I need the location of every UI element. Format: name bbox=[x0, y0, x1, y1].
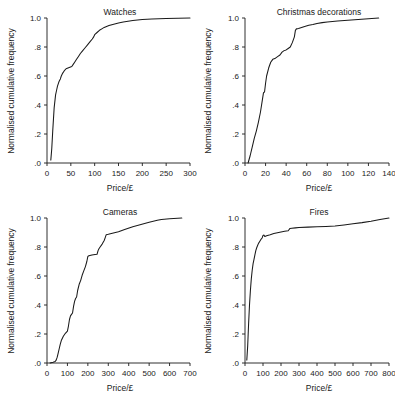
data-curve-christmas-decorations bbox=[248, 18, 379, 163]
x-tick-label: 200 bbox=[136, 169, 150, 178]
x-axis-label-watches: Price/£ bbox=[107, 183, 134, 193]
chart-watches: Watches Normalised cumulative frequency … bbox=[0, 0, 197, 200]
chart-title-fires: Fires bbox=[310, 207, 329, 217]
data-curve-cameras bbox=[50, 218, 182, 363]
x-tick-label: 60 bbox=[302, 169, 311, 178]
axes-watches bbox=[47, 18, 190, 163]
panel-cameras: Cameras Normalised cumulative frequency … bbox=[0, 200, 197, 401]
x-tick-label: 300 bbox=[102, 369, 116, 378]
axes-fires bbox=[245, 218, 389, 363]
y-tick-label: .6 bbox=[232, 72, 239, 81]
y-axis-label-cameras: Normalised cumulative frequency bbox=[6, 227, 16, 353]
ticks-fires: .0.2.4.6.81.00100200300400500600700800 bbox=[228, 214, 395, 378]
y-tick-label: .6 bbox=[34, 72, 41, 81]
x-axis-label-cameras: Price/£ bbox=[107, 383, 134, 393]
y-axis-label-fires: Normalised cumulative frequency bbox=[203, 227, 213, 353]
panel-fires: Fires Normalised cumulative frequency Pr… bbox=[197, 200, 395, 401]
y-tick-label: 1.0 bbox=[228, 14, 240, 23]
ticks-christmas-decorations: .0.2.4.6.81.0020406080100120140 bbox=[228, 14, 395, 178]
y-tick-label: .2 bbox=[232, 130, 239, 139]
x-tick-label: 500 bbox=[142, 369, 156, 378]
y-tick-label: 1.0 bbox=[228, 214, 240, 223]
x-tick-label: 700 bbox=[364, 369, 378, 378]
y-tick-label: .0 bbox=[232, 159, 239, 168]
panel-christmas-decorations: Christmas decorations Normalised cumulat… bbox=[197, 0, 395, 200]
y-tick-label: .4 bbox=[232, 301, 239, 310]
x-tick-label: 100 bbox=[256, 369, 270, 378]
x-tick-label: 100 bbox=[341, 169, 355, 178]
x-tick-label: 600 bbox=[163, 369, 177, 378]
x-tick-label: 80 bbox=[323, 169, 332, 178]
chart-title-watches: Watches bbox=[104, 7, 137, 17]
y-tick-label: 1.0 bbox=[30, 14, 42, 23]
x-tick-label: 140 bbox=[382, 169, 395, 178]
y-tick-label: .8 bbox=[34, 43, 41, 52]
chart-title-christmas-decorations: Christmas decorations bbox=[277, 7, 362, 17]
x-axis-label-fires: Price/£ bbox=[306, 383, 333, 393]
y-tick-label: .8 bbox=[232, 243, 239, 252]
y-tick-label: .6 bbox=[232, 272, 239, 281]
x-tick-label: 0 bbox=[243, 169, 248, 178]
y-tick-label: .8 bbox=[232, 43, 239, 52]
x-tick-label: 0 bbox=[45, 369, 50, 378]
chart-title-cameras: Cameras bbox=[103, 207, 137, 217]
y-axis-label-christmas-decorations: Normalised cumulative frequency bbox=[203, 27, 213, 153]
y-tick-label: .0 bbox=[232, 359, 239, 368]
x-tick-label: 20 bbox=[261, 169, 270, 178]
axes-cameras bbox=[47, 218, 190, 363]
x-tick-label: 600 bbox=[346, 369, 360, 378]
y-tick-label: .0 bbox=[34, 359, 41, 368]
chart-fires: Fires Normalised cumulative frequency Pr… bbox=[197, 200, 395, 401]
x-tick-label: 250 bbox=[159, 169, 173, 178]
x-tick-label: 0 bbox=[45, 169, 50, 178]
x-tick-label: 100 bbox=[61, 369, 75, 378]
x-tick-label: 0 bbox=[243, 369, 248, 378]
y-tick-label: .2 bbox=[34, 130, 41, 139]
x-tick-label: 400 bbox=[122, 369, 136, 378]
y-tick-label: .0 bbox=[34, 159, 41, 168]
y-tick-label: 1.0 bbox=[30, 214, 42, 223]
x-tick-label: 300 bbox=[292, 369, 306, 378]
x-axis-label-christmas-decorations: Price/£ bbox=[306, 183, 333, 193]
x-tick-label: 100 bbox=[88, 169, 102, 178]
axes-christmas-decorations bbox=[245, 18, 389, 163]
y-tick-label: .8 bbox=[34, 243, 41, 252]
y-tick-label: .4 bbox=[232, 101, 239, 110]
y-tick-label: .4 bbox=[34, 301, 41, 310]
y-tick-label: .4 bbox=[34, 101, 41, 110]
y-tick-label: .2 bbox=[34, 330, 41, 339]
data-curve-fires bbox=[247, 218, 389, 360]
panel-watches: Watches Normalised cumulative frequency … bbox=[0, 0, 197, 200]
x-tick-label: 200 bbox=[81, 369, 95, 378]
x-tick-label: 400 bbox=[310, 369, 324, 378]
x-tick-label: 500 bbox=[328, 369, 342, 378]
y-tick-label: .2 bbox=[232, 330, 239, 339]
data-curve-watches bbox=[51, 18, 190, 160]
cumulative-frequency-figure: Watches Normalised cumulative frequency … bbox=[0, 0, 395, 401]
x-tick-label: 150 bbox=[112, 169, 126, 178]
x-tick-label: 120 bbox=[362, 169, 376, 178]
x-tick-label: 700 bbox=[183, 369, 197, 378]
chart-cameras: Cameras Normalised cumulative frequency … bbox=[0, 200, 197, 401]
chart-christmas-decorations: Christmas decorations Normalised cumulat… bbox=[197, 0, 395, 200]
y-axis-label-watches: Normalised cumulative frequency bbox=[6, 27, 16, 153]
x-tick-label: 200 bbox=[274, 369, 288, 378]
x-tick-label: 40 bbox=[282, 169, 291, 178]
ticks-cameras: .0.2.4.6.81.00100200300400500600700 bbox=[30, 214, 197, 378]
x-tick-label: 300 bbox=[183, 169, 197, 178]
y-tick-label: .6 bbox=[34, 272, 41, 281]
x-tick-label: 50 bbox=[66, 169, 75, 178]
x-tick-label: 800 bbox=[382, 369, 395, 378]
